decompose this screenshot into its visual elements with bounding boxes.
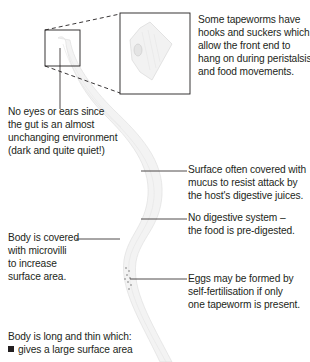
- annotation-line: to increase: [8, 257, 79, 270]
- mucus-annotation: Surface often covered with mucus to resi…: [188, 163, 306, 202]
- eggs-annotation: Eggs may be formed by self-fertilisation…: [188, 272, 300, 311]
- annotation-line: allow the front end to: [198, 39, 310, 52]
- microvilli-annotation: Body is covered with microvilli to incre…: [8, 231, 79, 283]
- annotation-line: mucus to resist attack by: [188, 176, 306, 189]
- long-thin-annotation: Body is long and thin which: gives a lar…: [8, 330, 133, 356]
- annotation-line: hang on during peristalsis: [198, 52, 310, 65]
- hooks-annotation: Some tapeworms have hooks and suckers wh…: [198, 13, 310, 78]
- head-magnification-inset-icon: [120, 13, 190, 94]
- annotation-line: No eyes or ears since: [8, 105, 117, 118]
- annotation-line: hooks and suckers which: [198, 26, 310, 39]
- annotation-line: with microvilli: [8, 244, 79, 257]
- annotation-heading: Body is long and thin which:: [8, 330, 133, 343]
- annotation-line: the gut is an almost: [8, 118, 117, 131]
- bullet-text: gives a large surface area: [18, 344, 133, 355]
- annotation-line: Surface often covered with: [188, 163, 306, 176]
- annotation-line: Body is covered: [8, 231, 79, 244]
- bullet-item: gives a large surface area: [8, 343, 133, 356]
- annotation-line: and food movements.: [198, 65, 310, 78]
- annotation-line: Eggs may be formed by: [188, 272, 300, 285]
- annotation-line: the food is pre-digested.: [188, 224, 295, 237]
- annotation-line: (dark and quite quiet!): [8, 144, 117, 157]
- annotation-line: unchanging environment: [8, 131, 117, 144]
- annotation-line: the host's digestive juices.: [188, 189, 306, 202]
- eyes-annotation: No eyes or ears since the gut is an almo…: [8, 105, 117, 157]
- annotation-line: one tapeworm is present.: [188, 298, 300, 311]
- annotation-line: surface area.: [8, 270, 79, 283]
- annotation-line: No digestive system –: [188, 211, 295, 224]
- annotation-line: Some tapeworms have: [198, 13, 310, 26]
- digestive-annotation: No digestive system – the food is pre-di…: [188, 211, 295, 237]
- annotation-line: self-fertilisation if only: [188, 285, 300, 298]
